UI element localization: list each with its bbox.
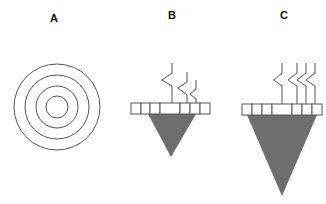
zigzag-lines-c xyxy=(274,63,315,104)
zigzag-line xyxy=(178,72,187,103)
box xyxy=(200,103,210,114)
cone-b xyxy=(148,114,196,157)
box xyxy=(242,104,252,115)
circle-outer xyxy=(14,64,100,150)
box-row-c xyxy=(242,104,322,115)
box xyxy=(312,104,322,115)
circle-3 xyxy=(36,86,78,128)
box xyxy=(131,103,141,114)
zigzag-line xyxy=(190,80,196,103)
panel-c: C xyxy=(242,9,322,196)
cone-c xyxy=(247,115,317,196)
panel-b-label: B xyxy=(168,9,176,21)
box-wide xyxy=(272,104,292,115)
box xyxy=(252,104,262,115)
panel-c-label: C xyxy=(280,9,288,21)
box xyxy=(302,104,312,115)
box-wide xyxy=(160,103,180,114)
box-row-b xyxy=(131,103,210,114)
zigzag-line xyxy=(162,63,172,103)
circle-inner xyxy=(46,96,68,118)
box xyxy=(190,103,200,114)
box xyxy=(141,103,150,114)
concentric-circles xyxy=(14,64,100,150)
zigzag-lines-b xyxy=(162,63,196,103)
box xyxy=(262,104,272,115)
zigzag-line xyxy=(274,63,282,104)
zigzag-line xyxy=(288,63,297,104)
box xyxy=(292,104,302,115)
zigzag-line xyxy=(297,63,306,104)
circle-2 xyxy=(25,75,89,139)
box xyxy=(150,103,160,114)
panel-a: A xyxy=(14,12,100,150)
panel-b: B xyxy=(131,9,210,157)
box xyxy=(180,103,190,114)
panel-a-label: A xyxy=(50,12,58,24)
diagram-canvas: A B C xyxy=(0,0,326,204)
zigzag-line xyxy=(306,63,315,104)
